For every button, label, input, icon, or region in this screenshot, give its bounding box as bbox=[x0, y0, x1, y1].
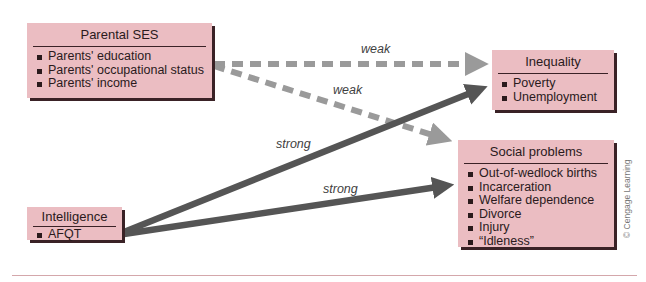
parental-ses-list: Parents' education Parents' occupational… bbox=[27, 50, 212, 91]
bottom-divider bbox=[12, 275, 637, 276]
arrow-ses-to-social-problems bbox=[214, 66, 442, 138]
parental-ses-box: Parental SES Parents' education Parents'… bbox=[27, 23, 212, 98]
list-item: Injury bbox=[468, 221, 614, 235]
label-ses-social-problems: weak bbox=[333, 83, 362, 97]
label-intelligence-inequality: strong bbox=[276, 137, 311, 151]
intelligence-title: Intelligence bbox=[33, 209, 116, 227]
copyright-credit: © Cengage Learning bbox=[622, 159, 632, 238]
label-intelligence-social-problems: strong bbox=[323, 182, 358, 196]
list-item: Parents' income bbox=[37, 77, 212, 91]
list-item: Poverty bbox=[502, 77, 614, 91]
social-problems-box: Social problems Out-of-wedlock births In… bbox=[458, 140, 614, 247]
list-item: Welfare dependence bbox=[468, 194, 614, 208]
inequality-box: Inequality Poverty Unemployment bbox=[492, 50, 614, 110]
social-problems-title: Social problems bbox=[464, 144, 608, 164]
social-problems-list: Out-of-wedlock births Incarceration Welf… bbox=[458, 167, 614, 248]
list-item: AFQT bbox=[37, 228, 122, 242]
list-item: Parents' education bbox=[37, 50, 212, 64]
list-item: Incarceration bbox=[468, 181, 614, 195]
label-ses-inequality: weak bbox=[361, 42, 390, 56]
list-item: Divorce bbox=[468, 208, 614, 222]
list-item: Unemployment bbox=[502, 91, 614, 105]
intelligence-list: AFQT bbox=[27, 228, 122, 242]
list-item: Out-of-wedlock births bbox=[468, 167, 614, 181]
list-item: “Idleness” bbox=[468, 235, 614, 249]
inequality-title: Inequality bbox=[498, 54, 608, 74]
parental-ses-title: Parental SES bbox=[33, 27, 206, 47]
intelligence-box: Intelligence AFQT bbox=[27, 207, 122, 240]
inequality-list: Poverty Unemployment bbox=[492, 77, 614, 104]
list-item: Parents' occupational status bbox=[37, 64, 212, 78]
